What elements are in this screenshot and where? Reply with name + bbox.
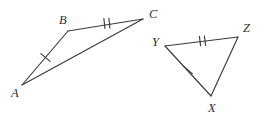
triangle-xyz: Y Z X [152, 21, 251, 115]
tick-ab-single [41, 54, 50, 62]
triangle-abc: A B C [10, 7, 158, 100]
edge-xz [211, 37, 238, 96]
geometry-figure: A B C Y Z X [0, 0, 264, 123]
vertex-label-b: B [59, 13, 67, 27]
edge-yx [165, 46, 211, 96]
edge-yz [165, 37, 238, 46]
tick-bc-double [104, 18, 110, 28]
geometry-canvas: A B C Y Z X [0, 0, 264, 123]
vertex-label-y: Y [152, 35, 161, 49]
vertex-label-a: A [10, 86, 19, 100]
vertex-label-z: Z [243, 21, 251, 35]
vertex-label-x: X [207, 101, 217, 115]
tick-yx-single [184, 66, 193, 73]
edge-ab [22, 31, 68, 85]
vertex-label-c: C [149, 7, 158, 21]
